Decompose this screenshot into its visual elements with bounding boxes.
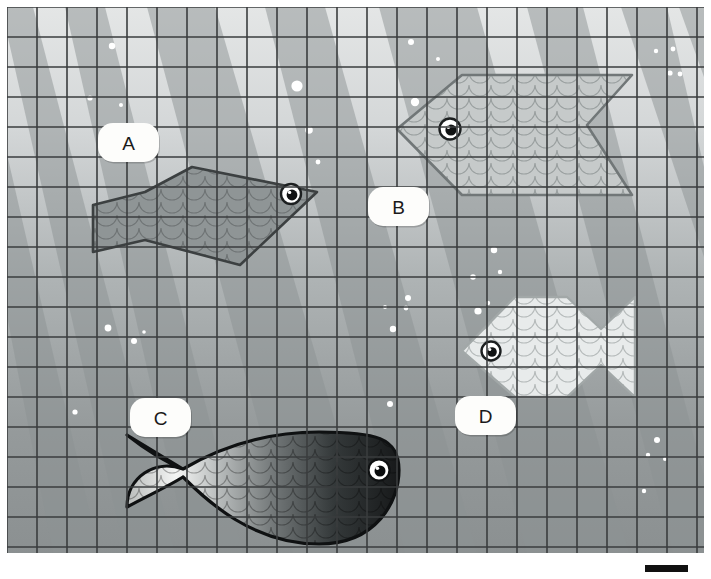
bubble (678, 72, 683, 77)
label-text: B (392, 197, 405, 218)
bubble (119, 103, 123, 107)
bubble (405, 295, 411, 301)
corner-mark (645, 565, 688, 572)
bubble (87, 95, 92, 100)
scene-svg: ABCD (7, 7, 704, 553)
bubble (131, 338, 137, 344)
label-text: C (154, 408, 168, 429)
bubble (498, 270, 502, 274)
bubble (72, 409, 77, 414)
fish-d-eye (482, 342, 501, 361)
bubble (109, 43, 115, 49)
fish-c-eye (369, 460, 390, 481)
bubble (291, 80, 302, 91)
bubble (142, 330, 146, 334)
bubble (654, 437, 660, 443)
label-text: D (479, 406, 493, 427)
bubble (316, 160, 321, 165)
bubble (105, 325, 112, 332)
bubble (408, 39, 414, 45)
bubble (671, 47, 676, 52)
fish-label-c[interactable]: C (130, 398, 192, 439)
bubble (474, 307, 481, 314)
scene-stage: ABCD (0, 0, 711, 579)
bubble (411, 98, 419, 106)
bubble (390, 326, 396, 332)
bubble (654, 49, 658, 53)
bubble (387, 401, 393, 407)
fish-label-d[interactable]: D (455, 396, 517, 437)
label-text: A (122, 133, 135, 154)
bubble (642, 489, 646, 493)
fish-label-b[interactable]: B (368, 187, 430, 228)
fish-label-a[interactable]: A (98, 123, 160, 164)
underwater-scene: ABCD (7, 7, 704, 553)
bubble (436, 57, 440, 61)
bubble (667, 70, 672, 75)
